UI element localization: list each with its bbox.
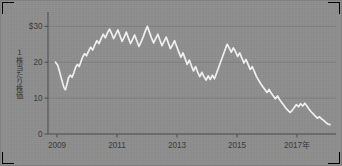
- gridlines: [48, 26, 336, 98]
- x-axis-tick-labels: 20092011201320152017年: [48, 140, 310, 150]
- line-chart-plot: 20092011201320152017年 $3020100: [0, 0, 342, 166]
- x-axis-ticks: [57, 134, 297, 138]
- y-axis-ticks: [45, 26, 49, 134]
- svg-text:2009: 2009: [48, 141, 67, 150]
- svg-text:10: 10: [33, 94, 43, 103]
- chart-figure: 1株当たり株価 20092011201320152017年 $3020100: [0, 0, 342, 166]
- svg-text:20: 20: [33, 58, 43, 67]
- price-series-line: [56, 26, 331, 124]
- svg-text:2015: 2015: [228, 141, 247, 150]
- svg-text:$30: $30: [29, 22, 43, 31]
- svg-text:0: 0: [38, 130, 43, 139]
- y-axis-title: 1株当たり株価: [8, 30, 23, 116]
- y-axis-tick-labels: $3020100: [29, 22, 43, 139]
- svg-text:2013: 2013: [168, 141, 187, 150]
- svg-text:2017年: 2017年: [284, 140, 310, 150]
- svg-text:2011: 2011: [108, 141, 126, 150]
